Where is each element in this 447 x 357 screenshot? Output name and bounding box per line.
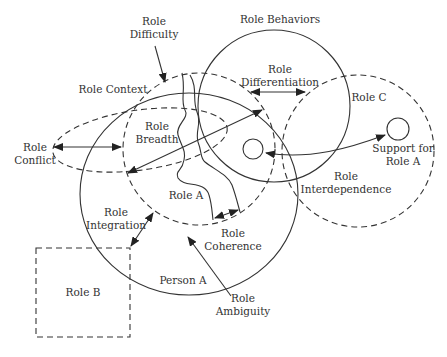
label-role-context: Role Context bbox=[79, 83, 148, 96]
label-role-differentiation: Role Differentiation bbox=[241, 63, 319, 89]
label-support-for-role-a: Support for Role A bbox=[372, 142, 434, 168]
label-role-conflict: Role Conflict bbox=[14, 141, 56, 167]
label-person-a: Person A bbox=[159, 274, 206, 287]
label-role-breadth: Role Breadth bbox=[136, 120, 179, 146]
label-role-behaviors: Role Behaviors bbox=[240, 13, 320, 26]
role-difficulty-arrow[interactable] bbox=[155, 46, 165, 82]
role-a-node-circle bbox=[243, 139, 263, 159]
label-role-ambiguity: Role Ambiguity bbox=[216, 292, 271, 318]
label-role-interdependence: Role Interdependence bbox=[301, 170, 392, 196]
label-role-c: Role C bbox=[351, 91, 386, 104]
label-role-difficulty: Role Difficulty bbox=[130, 15, 179, 41]
label-role-a: Role A bbox=[169, 189, 204, 202]
label-role-b: Role B bbox=[66, 286, 101, 299]
role-diagram: Role Difficulty Role Behaviors Role Diff… bbox=[0, 0, 447, 357]
label-role-coherence: Role Coherence bbox=[204, 227, 261, 253]
role-coherence-arrow[interactable] bbox=[215, 210, 238, 218]
label-role-integration: Role Integration bbox=[86, 206, 146, 232]
support-node-circle bbox=[387, 118, 409, 140]
